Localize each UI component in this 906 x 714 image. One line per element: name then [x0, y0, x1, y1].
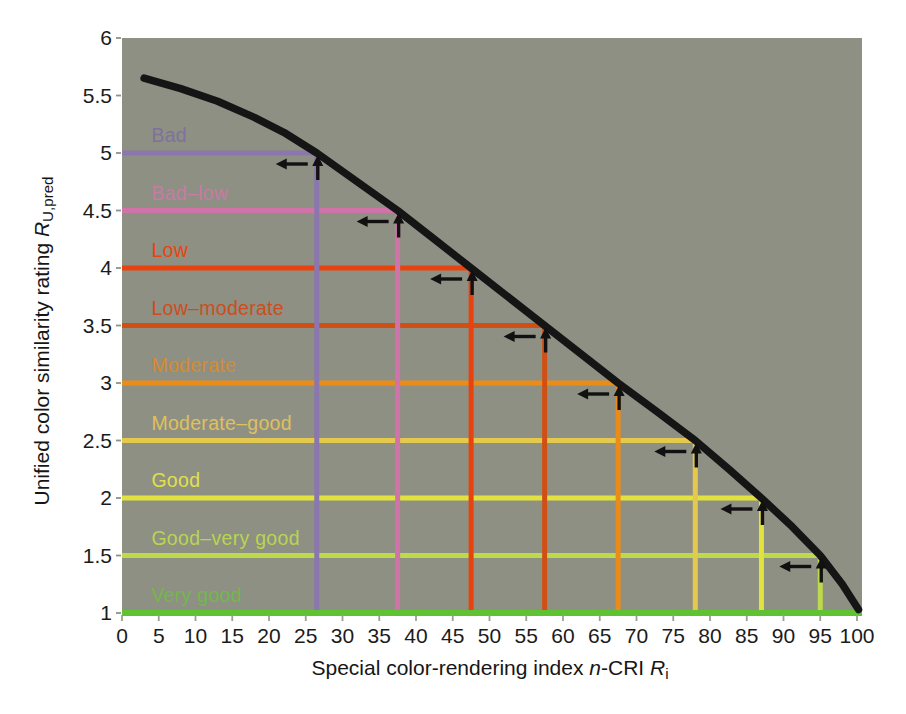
- figure: BadBad–lowLowLow–moderateModerateModerat…: [0, 0, 906, 714]
- x-tick-label-5: 5: [153, 624, 165, 648]
- rating-label-low-moderate: Low–moderate: [151, 297, 284, 320]
- left-arrow-head-bad: [276, 159, 287, 170]
- rating-label-low: Low: [151, 239, 188, 262]
- chart-canvas: [0, 0, 906, 714]
- y-tick-label-2: 2: [48, 486, 112, 510]
- x-tick-label-70: 70: [625, 624, 648, 648]
- x-axis-title-var-n: n: [589, 656, 601, 679]
- rating-label-moderate: Moderate: [151, 354, 236, 377]
- left-arrow-head-moderate: [577, 389, 588, 400]
- x-tick-label-100: 100: [839, 624, 874, 648]
- left-arrow-head-low: [430, 274, 441, 285]
- x-axis-title-text: Special color-rendering index: [311, 656, 589, 679]
- x-tick-label-55: 55: [515, 624, 538, 648]
- x-tick-label-15: 15: [221, 624, 244, 648]
- x-tick-label-90: 90: [772, 624, 795, 648]
- y-axis-title-text: Unified color similarity rating: [30, 237, 53, 505]
- y-axis-title-subscript: U,pred: [39, 177, 56, 222]
- x-tick-label-75: 75: [662, 624, 685, 648]
- left-arrow-head-good-very-good: [779, 561, 790, 572]
- y-tick-label-1.5: 1.5: [48, 543, 112, 567]
- x-axis-title-var-R: R: [650, 656, 665, 679]
- y-tick-label-2.5: 2.5: [48, 428, 112, 452]
- y-tick-label-3.5: 3.5: [48, 313, 112, 337]
- y-tick-label-6: 6: [48, 26, 112, 50]
- left-arrow-head-low-moderate: [504, 331, 515, 342]
- x-tick-label-10: 10: [184, 624, 207, 648]
- rating-label-good: Good: [151, 469, 200, 492]
- x-axis-title: Special color-rendering index n-CRI Ri: [311, 656, 668, 680]
- y-tick-label-4: 4: [48, 256, 112, 280]
- x-tick-label-50: 50: [478, 624, 501, 648]
- rating-label-good-very-good: Good–very good: [151, 527, 299, 550]
- x-axis-title-subscript: i: [665, 665, 668, 682]
- x-tick-label-45: 45: [441, 624, 464, 648]
- x-tick-label-0: 0: [116, 624, 128, 648]
- x-tick-label-60: 60: [551, 624, 574, 648]
- y-tick-label-4.5: 4.5: [48, 198, 112, 222]
- x-tick-label-80: 80: [698, 624, 721, 648]
- x-tick-label-65: 65: [588, 624, 611, 648]
- rating-label-moderate-good: Moderate–good: [151, 412, 292, 435]
- x-tick-label-30: 30: [331, 624, 354, 648]
- x-axis-title-mid: -CRI: [601, 656, 650, 679]
- y-tick-label-1: 1: [48, 601, 112, 625]
- y-tick-label-5.5: 5.5: [48, 83, 112, 107]
- y-axis-title-var-R: R: [30, 222, 53, 237]
- x-tick-label-35: 35: [368, 624, 391, 648]
- x-tick-label-85: 85: [735, 624, 758, 648]
- x-tick-label-20: 20: [257, 624, 280, 648]
- y-axis-title: Unified color similarity rating RU,pred: [30, 177, 54, 506]
- rating-label-bad: Bad: [151, 124, 187, 147]
- y-tick-label-3: 3: [48, 371, 112, 395]
- rating-label-very-good: Very good: [151, 584, 242, 607]
- rating-label-bad-low: Bad–low: [151, 182, 228, 205]
- left-arrow-head-bad-low: [357, 216, 368, 227]
- y-tick-label-5: 5: [48, 141, 112, 165]
- x-tick-label-95: 95: [809, 624, 832, 648]
- x-tick-label-25: 25: [294, 624, 317, 648]
- left-arrow-head-moderate-good: [654, 446, 665, 457]
- x-tick-label-40: 40: [404, 624, 427, 648]
- left-arrow-head-good: [720, 504, 731, 515]
